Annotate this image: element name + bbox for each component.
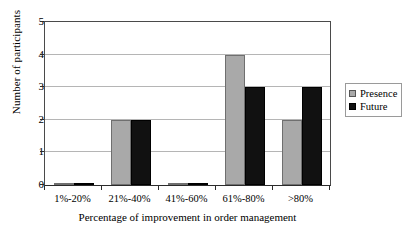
x-axis-tick-mark	[158, 186, 159, 190]
bar-group	[216, 22, 273, 185]
bar-future	[302, 87, 322, 185]
bar-chart: Number of participants 012345 1%-20%21%-…	[0, 0, 412, 232]
bar-group	[102, 22, 159, 185]
bar-future	[188, 183, 208, 185]
y-axis-tick-label: 5	[10, 16, 44, 27]
x-axis-ticks	[44, 186, 331, 191]
bar-future	[74, 183, 94, 185]
legend-swatch-future-icon	[349, 103, 356, 110]
x-axis-title: Percentage of improvement in order manag…	[44, 211, 331, 224]
x-axis-tick-mark	[272, 186, 273, 190]
plot-area	[44, 21, 331, 186]
x-axis-tick-label: 21%-40%	[109, 192, 151, 205]
bar-future	[131, 120, 151, 185]
y-axis-tick-label: 0	[10, 179, 44, 190]
x-axis-tick-mark	[44, 186, 45, 190]
bar-group	[45, 22, 102, 185]
legend-label: Future	[360, 101, 387, 112]
bar-future	[245, 87, 265, 185]
bar-presence	[111, 120, 131, 185]
x-axis-tick-mark	[329, 186, 330, 190]
legend-item-presence[interactable]: Presence	[349, 87, 397, 100]
x-axis-tick-label: >80%	[288, 192, 313, 205]
x-axis-tick-label: 1%-20%	[54, 192, 91, 205]
bar-group	[159, 22, 216, 185]
bar-presence	[225, 55, 245, 185]
x-axis-tick-mark	[215, 186, 216, 190]
x-axis-tick-labels: 1%-20%21%-40%41%-60%61%-80%>80%	[44, 192, 331, 208]
bar-group	[273, 22, 330, 185]
x-axis-tick-mark	[101, 186, 102, 190]
legend-swatch-presence-icon	[349, 90, 356, 97]
x-axis-tick-label: 61%-80%	[223, 192, 265, 205]
y-axis-tick-label: 4	[10, 49, 44, 60]
x-axis-tick-label: 41%-60%	[166, 192, 208, 205]
y-axis-tick-label: 2	[10, 114, 44, 125]
y-axis-ticks: 012345	[0, 21, 44, 186]
bar-presence	[168, 183, 188, 185]
bar-presence	[54, 183, 74, 185]
y-axis-tick-label: 1	[10, 146, 44, 157]
bar-presence	[282, 120, 302, 185]
chart-legend: PresenceFuture	[345, 83, 402, 117]
legend-label: Presence	[360, 88, 397, 99]
y-axis-tick-label: 3	[10, 81, 44, 92]
legend-item-future[interactable]: Future	[349, 100, 397, 113]
